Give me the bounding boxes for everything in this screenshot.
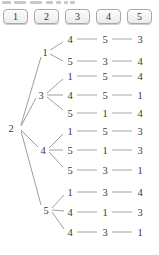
- tree-node-label: 3: [38, 90, 43, 101]
- tree-edge: [52, 195, 64, 208]
- leaf-digit: 4: [67, 90, 73, 101]
- leaf-digit: 5: [67, 145, 72, 156]
- leaf-digit: 5: [67, 165, 72, 176]
- leaf-digit: 3: [102, 56, 107, 67]
- tree-edge: [21, 130, 38, 147]
- tree-edge: [47, 97, 63, 110]
- tree-edge: [52, 210, 64, 211]
- leaf-digit: 5: [102, 126, 107, 137]
- tree-edge: [21, 131, 41, 205]
- leaf-digit: 3: [102, 227, 107, 238]
- leaf-digit: 4: [137, 56, 143, 67]
- tree-edge: [50, 54, 63, 61]
- leaf-digit: 3: [137, 126, 142, 137]
- tree-edge: [21, 98, 36, 126]
- tree-diagram: 2 1 3 4 5 4 5 3 5 3 4 1 5 4 4 5 1 5 1 4 …: [0, 0, 159, 255]
- leaf-digit: 4: [137, 108, 143, 119]
- leaf-digit: 1: [102, 108, 107, 119]
- tree-node-label: 1: [42, 47, 47, 58]
- tree-edge: [52, 212, 64, 229]
- leaf-digit: 1: [102, 145, 107, 156]
- leaf-digit: 4: [137, 71, 143, 82]
- tree-edge: [49, 134, 63, 148]
- leaf-digit: 5: [102, 90, 107, 101]
- tree-node-label: 4: [40, 145, 46, 156]
- leaf-digit: 4: [67, 227, 73, 238]
- leaf-digit: 5: [67, 108, 72, 119]
- leaf-digit: 1: [102, 207, 107, 218]
- leaf-digit: 1: [137, 227, 142, 238]
- tree-node-label: 5: [43, 205, 48, 216]
- leaf-digit: 1: [137, 90, 142, 101]
- leaf-digit: 3: [137, 145, 142, 156]
- leaf-digit: 5: [102, 34, 107, 45]
- figure-canvas: 1 2 3 4 5: [0, 0, 159, 255]
- tree-edge: [49, 152, 63, 167]
- leaf-digit: 3: [102, 187, 107, 198]
- leaf-digit: 4: [67, 207, 73, 218]
- leaf-digit: 5: [67, 56, 72, 67]
- leaf-digit: 3: [137, 34, 142, 45]
- leaf-digit: 5: [102, 71, 107, 82]
- leaf-digit: 4: [67, 34, 73, 45]
- leaf-digit: 1: [67, 71, 72, 82]
- tree-root-label: 2: [8, 123, 13, 134]
- leaf-digit: 3: [137, 207, 142, 218]
- tree-edge: [50, 42, 63, 50]
- leaf-digit: 4: [137, 187, 143, 198]
- leaf-digit: 3: [102, 165, 107, 176]
- leaf-digit: 1: [67, 187, 72, 198]
- leaf-digit: 1: [67, 126, 72, 137]
- tree-edge: [47, 79, 63, 93]
- leaf-digit: 1: [137, 165, 142, 176]
